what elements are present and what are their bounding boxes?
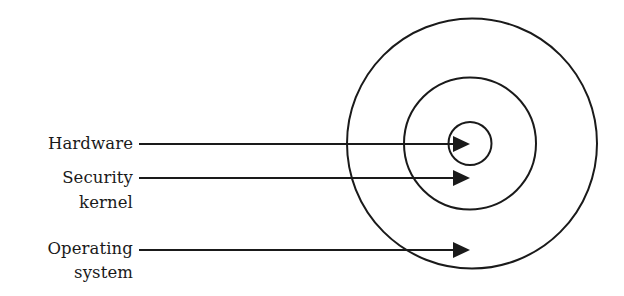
label-line: Security — [62, 168, 133, 187]
arrow-hardware — [139, 136, 470, 152]
arrow-security-kernel — [139, 170, 470, 186]
arrowhead-icon — [453, 170, 470, 186]
arrow-operating-system — [139, 242, 470, 258]
label-line: Operating — [47, 239, 133, 258]
arrowhead-icon — [453, 136, 470, 152]
label-line: kernel — [62, 193, 133, 212]
label-line: system — [47, 263, 133, 282]
label-line: Hardware — [48, 134, 133, 153]
label-security-kernel: Security kernel — [62, 168, 133, 212]
label-hardware: Hardware — [48, 134, 133, 153]
arrowhead-icon — [453, 242, 470, 258]
label-operating-system: Operating system — [47, 239, 133, 282]
